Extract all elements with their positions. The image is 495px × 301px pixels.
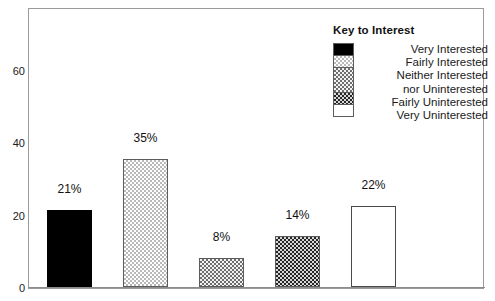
bar-value-label-very-interested: 21% bbox=[47, 183, 92, 195]
legend: Key to Interest Very Interested Fairly I… bbox=[333, 24, 488, 123]
bar-very-interested[interactable] bbox=[47, 210, 92, 287]
legend-label-very-uninterested: Very Uninterested bbox=[360, 109, 488, 122]
legend-title: Key to Interest bbox=[333, 24, 488, 36]
bar-neither-interested-nor-uninterested[interactable] bbox=[199, 258, 244, 287]
legend-swatch-neither[interactable] bbox=[333, 67, 354, 93]
legend-label-neither-interested: Neither Interested bbox=[360, 69, 488, 82]
bar-value-label-fairly-uninterested: 14% bbox=[275, 209, 320, 221]
legend-label-fairly-uninterested: Fairly Uninterested bbox=[360, 96, 488, 109]
legend-label-fairly-interested: Fairly Interested bbox=[360, 56, 488, 69]
bar-fairly-interested[interactable] bbox=[123, 159, 168, 287]
bar-very-uninterested[interactable] bbox=[351, 206, 396, 287]
bar-value-label-neither: 8% bbox=[199, 231, 244, 243]
bar-value-label-very-uninterested: 22% bbox=[351, 179, 396, 191]
legend-swatches bbox=[333, 43, 354, 116]
legend-body: Very Interested Fairly Interested Neithe… bbox=[333, 43, 488, 123]
legend-labels: Very Interested Fairly Interested Neithe… bbox=[360, 43, 488, 122]
bar-fairly-uninterested[interactable] bbox=[275, 236, 320, 287]
legend-swatch-very-uninterested[interactable] bbox=[333, 104, 354, 117]
legend-label-nor-uninterested: nor Uninterested bbox=[360, 83, 488, 96]
bar-value-label-fairly-interested: 35% bbox=[123, 132, 168, 144]
chart-canvas: 60 40 20 0 21% 35% 8% 14% 22% Key to Int… bbox=[0, 0, 495, 301]
legend-label-very-interested: Very Interested bbox=[360, 43, 488, 56]
